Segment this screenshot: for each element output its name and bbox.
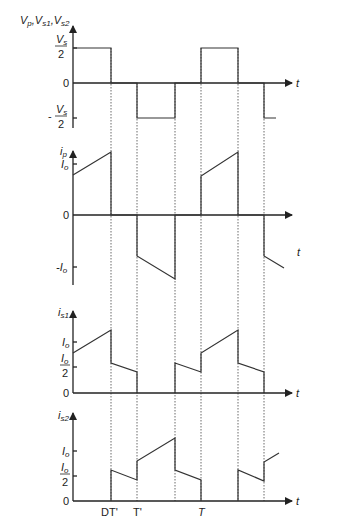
waveform-is1 <box>73 330 137 393</box>
tick-label-zero-voltage: 0 <box>63 77 69 89</box>
tick-label-vs-half: Vs 2 <box>55 33 67 60</box>
y-axis-label-voltage: Vp,Vs1,Vs2 <box>20 14 70 28</box>
svg-text:2: 2 <box>58 118 64 130</box>
waveform-is2-b <box>238 453 279 501</box>
y-axis-label-is1: is1 <box>58 306 69 320</box>
t-axis-label-is1: t <box>296 387 300 399</box>
panel-voltage: t Vp,Vs1,Vs2 Vs 2 0 - Vs 2 <box>20 14 300 130</box>
y-axis-label-ip: ip <box>60 145 67 159</box>
svg-text:-: - <box>48 110 52 122</box>
panel-switch1-current: t is1 Io Io 2 0 <box>58 306 300 399</box>
svg-text:2: 2 <box>62 367 68 379</box>
svg-text:Io: Io <box>61 352 69 366</box>
svg-text:Vs: Vs <box>56 33 67 47</box>
svg-text:Io: Io <box>61 461 69 475</box>
tick-label-io-is1: Io <box>62 336 70 350</box>
tick-label-io-ip: Io <box>61 158 69 172</box>
t-axis-label-ip: t <box>297 246 301 258</box>
time-label-t: T <box>198 506 206 518</box>
tick-label-io-half-is1: Io 2 <box>60 352 70 379</box>
waveform-is2 <box>111 438 201 501</box>
waveform-is1-b <box>175 330 264 393</box>
t-axis-label-is2: t <box>296 495 300 507</box>
tick-label-zero-is1: 0 <box>63 387 69 399</box>
time-label-t-prime: T' <box>133 506 142 518</box>
svg-text:Vs: Vs <box>56 103 67 117</box>
tick-label-neg-vs-half: - Vs 2 <box>48 103 67 130</box>
tick-label-zero-is2: 0 <box>63 495 69 507</box>
waveform-diagram: t Vp,Vs1,Vs2 Vs 2 0 - Vs 2 t ip Io 0 -Io <box>0 0 339 528</box>
svg-text:2: 2 <box>58 48 64 60</box>
time-label-dt-prime: DT' <box>101 506 118 518</box>
tick-label-io-is2: Io <box>62 445 70 459</box>
t-axis-label: t <box>296 77 300 89</box>
svg-text:2: 2 <box>62 476 68 488</box>
y-axis-label-is2: is2 <box>58 409 69 423</box>
tick-label-io-half-is2: Io 2 <box>60 461 70 488</box>
tick-label-neg-io-ip: -Io <box>56 261 68 275</box>
time-guide-lines <box>111 48 264 501</box>
tick-label-zero-ip: 0 <box>63 209 69 221</box>
